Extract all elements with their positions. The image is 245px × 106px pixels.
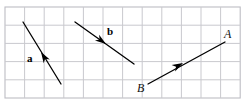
vector-label-a: a [27,53,33,64]
vector-label-b: b [107,26,113,37]
diagram-canvas [0,0,245,106]
label-a: A [224,28,231,40]
vector-grid-diagram: abAB [0,0,245,106]
label-b: B [137,82,144,94]
